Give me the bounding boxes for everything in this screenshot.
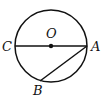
- label-c: C: [2, 39, 12, 54]
- label-b: B: [32, 83, 43, 97]
- label-o: O: [46, 26, 57, 41]
- circle-diagram: C O A B: [0, 0, 106, 97]
- center-point-o: [49, 44, 53, 48]
- chord-ab: [40, 46, 87, 81]
- label-a: A: [90, 39, 100, 54]
